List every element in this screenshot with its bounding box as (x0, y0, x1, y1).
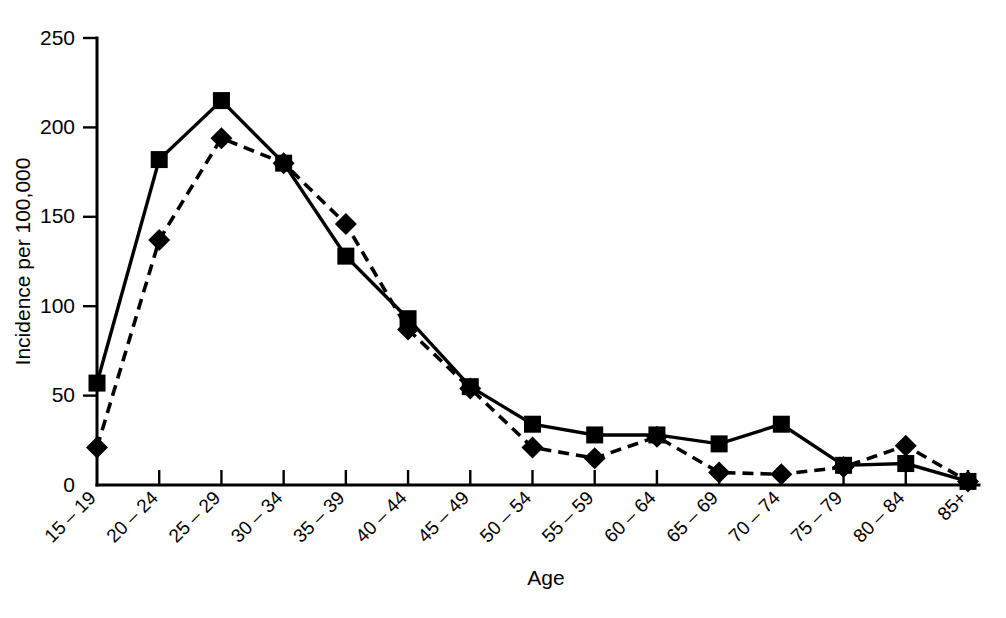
x-tick-label: 35 – 39 (289, 487, 349, 547)
y-axis-tick-labels: 050100150200250 (40, 26, 75, 496)
x-tick-label: 80 – 84 (849, 487, 909, 547)
data-point-diamond (584, 447, 606, 469)
dashed-diamond-series-markers (86, 127, 979, 492)
y-tick-label: 50 (52, 383, 75, 406)
x-tick-label: 30 – 34 (227, 487, 287, 547)
data-point-square (773, 416, 790, 433)
data-point-square (897, 455, 914, 472)
x-tick-label: 65 – 69 (662, 487, 722, 547)
incidence-by-age-line-chart: 050100150200250 15 – 1920 – 2425 – 2930 … (0, 0, 1006, 618)
data-point-square (462, 378, 479, 395)
data-point-diamond (708, 461, 730, 483)
x-tick-label: 45 – 49 (413, 487, 473, 547)
data-point-square (151, 151, 168, 168)
data-point-diamond (210, 127, 232, 149)
y-axis-title: Incidence per 100,000 (11, 158, 34, 366)
x-tick-label: 15 – 19 (40, 487, 100, 547)
data-point-diamond (335, 213, 357, 235)
data-point-square (524, 416, 541, 433)
data-point-square (337, 248, 354, 265)
y-tick-label: 100 (40, 294, 75, 317)
data-point-square (648, 426, 665, 443)
x-tick-label: 50 – 54 (476, 487, 536, 547)
data-point-square (711, 435, 728, 452)
y-tick-label: 250 (40, 26, 75, 49)
x-tick-label: 55 – 59 (538, 487, 598, 547)
data-point-square (959, 473, 976, 490)
x-tick-label: 75 – 79 (787, 487, 847, 547)
data-point-square (275, 155, 292, 172)
data-point-square (89, 375, 106, 392)
x-axis-title: Age (527, 566, 564, 589)
y-axis-ticks (83, 38, 97, 396)
data-point-square (586, 426, 603, 443)
x-axis-tick-labels: 15 – 1920 – 2425 – 2930 – 3435 – 3940 – … (40, 487, 971, 547)
x-tick-label: 60 – 64 (600, 487, 660, 547)
data-point-diamond (770, 463, 792, 485)
x-tick-label: 20 – 24 (102, 487, 162, 547)
x-tick-label: 85+ (933, 487, 971, 525)
y-tick-label: 200 (40, 115, 75, 138)
data-point-diamond (521, 436, 543, 458)
data-point-diamond (86, 436, 108, 458)
data-point-square (400, 310, 417, 327)
y-tick-label: 150 (40, 204, 75, 227)
data-point-square (213, 92, 230, 109)
x-tick-label: 70 – 74 (724, 487, 784, 547)
solid-square-series-markers (89, 92, 977, 490)
figure-caption (0, 602, 1006, 618)
data-point-diamond (895, 435, 917, 457)
y-tick-label: 0 (63, 473, 75, 496)
data-point-diamond (148, 229, 170, 251)
x-tick-label: 25 – 29 (165, 487, 225, 547)
x-tick-label: 40 – 44 (351, 487, 411, 547)
data-point-square (835, 457, 852, 474)
figure-container: 050100150200250 15 – 1920 – 2425 – 2930 … (0, 0, 1006, 618)
